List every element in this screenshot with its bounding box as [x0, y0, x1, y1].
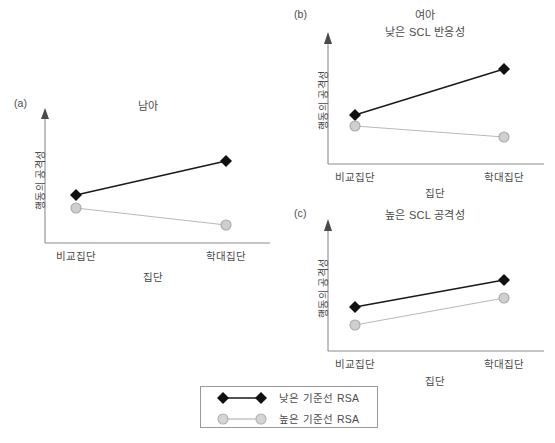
panel-c-xtick-0: 비교집단 — [315, 356, 395, 371]
panel-b-y-axis-arrow — [324, 32, 332, 44]
panel-c-y-axis-arrow — [324, 219, 332, 231]
legend-label-high-rsa: 높은 기준선 RSA — [279, 411, 359, 426]
legend-marker-circle — [215, 408, 271, 429]
panel-a-series-high-rsa-line — [76, 208, 226, 225]
panel-b-point-high-rsa-0 — [350, 121, 360, 131]
panel-c-series-low-rsa-line — [355, 280, 504, 307]
panel-a-xtick-1: 학대집단 — [186, 248, 266, 263]
panel-c-point-high-rsa-1 — [499, 293, 509, 303]
panel-a-y-axis-label: 행동의 공격성 — [32, 150, 47, 210]
panel-c-point-low-rsa-0 — [349, 301, 361, 313]
panel-a-point-low-rsa-0 — [70, 189, 82, 201]
panel-a-point-low-rsa-1 — [220, 155, 232, 167]
panel-b-series-low-rsa-line — [355, 69, 504, 115]
panel-a-x-axis-label: 집단 — [118, 269, 188, 284]
panel-c: (c) 높은 SCL 공격성 행동의 공격성 비교집단 학대집단 집단 — [292, 203, 552, 388]
panel-c-point-high-rsa-0 — [350, 320, 360, 330]
legend-marker-diamond — [215, 387, 271, 408]
panel-a-series-low-rsa-line — [76, 161, 226, 195]
legend-item-high-rsa: 높은 기준선 RSA — [201, 408, 377, 429]
legend-label-low-rsa: 낮은 기준선 RSA — [279, 390, 359, 405]
legend-item-low-rsa: 낮은 기준선 RSA — [201, 387, 377, 408]
panel-a-y-axis-arrow — [41, 108, 49, 119]
panel-b-xtick-0: 비교집단 — [315, 169, 395, 184]
panel-b-series-high-rsa-line — [355, 126, 504, 137]
panel-a-point-high-rsa-0 — [71, 203, 81, 213]
panel-a-point-high-rsa-1 — [221, 220, 231, 230]
panel-b: (b) 여아 낮은 SCL 반응성 행동의 공격성 비교집단 학대집단 집단 — [292, 2, 552, 198]
panel-c-y-axis-label: 행동의 공격성 — [315, 258, 330, 318]
panel-c-xtick-1: 학대집단 — [464, 356, 544, 371]
panel-c-point-low-rsa-1 — [498, 274, 510, 286]
figure-container: (a) 남아 행동의 공격성 비교집단 학대집단 집단 (b) 여아 낮은 SC… — [0, 0, 555, 443]
panel-a: (a) 남아 행동의 공격성 비교집단 학대집단 집단 — [8, 95, 280, 290]
panel-a-xtick-0: 비교집단 — [36, 248, 116, 263]
panel-b-point-low-rsa-1 — [498, 63, 510, 75]
panel-c-series-high-rsa-line — [355, 298, 504, 325]
panel-b-y-axis-label: 행동의 공격성 — [315, 70, 330, 130]
panel-b-x-axis-label: 집단 — [400, 185, 470, 200]
panel-b-point-low-rsa-0 — [349, 109, 361, 121]
panel-b-point-high-rsa-1 — [499, 132, 509, 142]
panel-c-x-axis-label: 집단 — [400, 373, 470, 388]
legend: 낮은 기준선 RSA 높은 기준선 RSA — [200, 386, 378, 428]
panel-b-xtick-1: 학대집단 — [464, 169, 544, 184]
